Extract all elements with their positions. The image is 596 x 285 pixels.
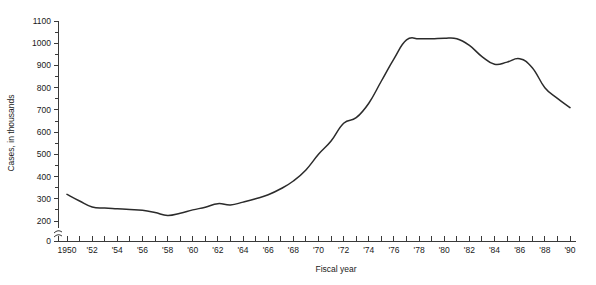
y-tick-label-400: 400 <box>37 172 51 182</box>
x-tick-label-1958: '58 <box>162 245 173 255</box>
y-tick-label-1000: 1000 <box>32 38 51 48</box>
x-tick-label-1962: '62 <box>212 245 223 255</box>
x-tick-label-1954: '54 <box>112 245 123 255</box>
x-tick-label-1964: '64 <box>238 245 249 255</box>
x-tick-label-1974: '74 <box>363 245 374 255</box>
y-tick-label-500: 500 <box>37 149 51 159</box>
line-chart-canvas: 020030040050060070080090010001100 1950'5… <box>0 0 596 285</box>
x-tick-label-1982: '82 <box>464 245 475 255</box>
x-tick-label-1976: '76 <box>388 245 399 255</box>
y-axis-group: 020030040050060070080090010001100 <box>32 16 62 246</box>
x-tick-label-1978: '78 <box>414 245 425 255</box>
x-tick-label-1988: '88 <box>539 245 550 255</box>
x-tick-label-1984: '84 <box>489 245 500 255</box>
y-tick-label-800: 800 <box>37 83 51 93</box>
series-group <box>67 38 570 216</box>
y-tick-label-300: 300 <box>37 194 51 204</box>
x-tick-label-1960: '60 <box>187 245 198 255</box>
y-tick-label-700: 700 <box>37 105 51 115</box>
y-tick-group: 020030040050060070080090010001100 <box>32 16 58 246</box>
x-tick-label-1980: '80 <box>439 245 450 255</box>
x-tick-label-1952: '52 <box>87 245 98 255</box>
y-tick-label-900: 900 <box>37 60 51 70</box>
x-tick-label-1968: '68 <box>288 245 299 255</box>
x-tick-label-1950: 1950 <box>58 245 77 255</box>
y-axis-title: Cases, in thousands <box>6 94 16 171</box>
x-tick-label-1972: '72 <box>338 245 349 255</box>
x-axis-group: 1950'52'54'56'58'60'62'64'66'68'70'72'74… <box>58 236 576 255</box>
y-tick-label-600: 600 <box>37 127 51 137</box>
x-tick-label-1986: '86 <box>514 245 525 255</box>
y-tick-label-0: 0 <box>46 236 51 246</box>
y-tick-label-1100: 1100 <box>33 16 52 26</box>
x-tick-label-1990: '90 <box>564 245 575 255</box>
chart-figure: 020030040050060070080090010001100 1950'5… <box>0 0 596 285</box>
x-tick-label-1966: '66 <box>263 245 274 255</box>
x-axis-title: Fiscal year <box>315 264 356 274</box>
series-line-cases <box>67 38 570 216</box>
x-tick-label-1970: '70 <box>313 245 324 255</box>
x-tick-label-1956: '56 <box>137 245 148 255</box>
x-tick-group: 1950'52'54'56'58'60'62'64'66'68'70'72'74… <box>58 236 576 255</box>
y-tick-label-200: 200 <box>37 216 51 226</box>
